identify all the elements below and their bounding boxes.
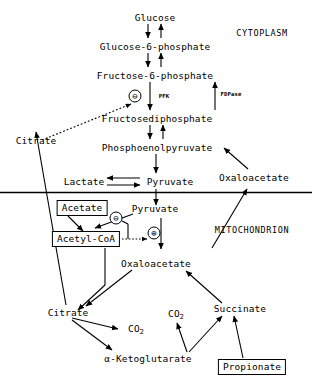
co2-right-subscript: 2 [180, 313, 184, 321]
arrow-citrate-to-co2 [72, 318, 118, 329]
arrow-acetate-to-acetylcoa [68, 216, 83, 231]
arrow-oxaloacetate-export [212, 189, 247, 248]
node-acetyl-coa[interactable]: Acetyl-CoA [52, 231, 120, 247]
node-lactate[interactable]: Lactate [64, 176, 105, 187]
node-oxaloacetate-mitochondrion[interactable]: Oxaloacetate [121, 258, 191, 269]
co2-left-text: CO [128, 323, 140, 334]
co2-right-text: CO [168, 308, 180, 319]
node-acetate[interactable]: Acetate [57, 200, 108, 216]
arrow-succinate-to-oxaloacetate [186, 271, 222, 303]
arrow-ketoglutarate-to-co2 [177, 323, 187, 352]
node-fructose-6-phosphate[interactable]: Fructose-6-phosphate [97, 70, 213, 81]
node-fructosediphosphate[interactable]: Fructosediphosphate [102, 113, 213, 124]
node-citrate-cytoplasm[interactable]: Citrate [16, 135, 57, 146]
co2-left-subscript: 2 [140, 328, 144, 336]
node-co2-left[interactable]: CO2 [128, 323, 144, 338]
node-alpha-ketoglutarate[interactable]: α-Ketoglutarate [104, 353, 191, 364]
node-citrate-mitochondrion[interactable]: Citrate [48, 307, 89, 318]
node-phosphoenolpyruvate[interactable]: Phosphoenolpyruvate [102, 142, 213, 153]
node-glucose[interactable]: Glucose [135, 12, 176, 23]
arrow-ketoglutarate-to-succinate [189, 316, 222, 352]
pathway-diagram: CYTOPLASM MITOCHONDRION Glucose Glucose-… [0, 0, 312, 389]
line-acetylcoa-feedback-to-minus [122, 221, 128, 224]
compartment-label-cytoplasm: CYTOPLASM [236, 28, 287, 38]
node-pyruvate-mitochondrion[interactable]: Pyruvate [132, 203, 179, 214]
arrow-propionate-to-succinate [234, 316, 243, 358]
arrow-citrate-export [36, 132, 66, 305]
arrow-citrate-to-ketoglutarate [72, 320, 112, 350]
node-oxaloacetate-cytoplasm[interactable]: Oxaloacetate [219, 172, 289, 183]
compartment-label-mitochondrion: MITOCHONDRION [215, 225, 289, 235]
node-co2-right[interactable]: CO2 [168, 308, 184, 323]
node-succinate[interactable]: Succinate [214, 303, 266, 314]
inhibition-icon-acetyl-coa: ⊖ [110, 212, 123, 225]
arrow-oxaloacetate-to-citrate [86, 270, 132, 306]
node-glucose-6-phosphate[interactable]: Glucose-6-phosphate [100, 41, 211, 52]
enzyme-label-pfk: PFK [159, 93, 169, 99]
inhibition-icon-pfk: ⊖ [129, 90, 142, 103]
enzyme-label-fdpase: FDPase [221, 91, 242, 97]
pathway-connector-layer [0, 0, 312, 389]
activation-icon-pyruvate-carboxylase: ⊕ [148, 227, 161, 240]
arrow-oxaloacetate-to-pep [224, 148, 248, 169]
node-pyruvate-cytoplasm[interactable]: Pyruvate [147, 176, 194, 187]
node-propionate[interactable]: Propionate [218, 359, 286, 375]
